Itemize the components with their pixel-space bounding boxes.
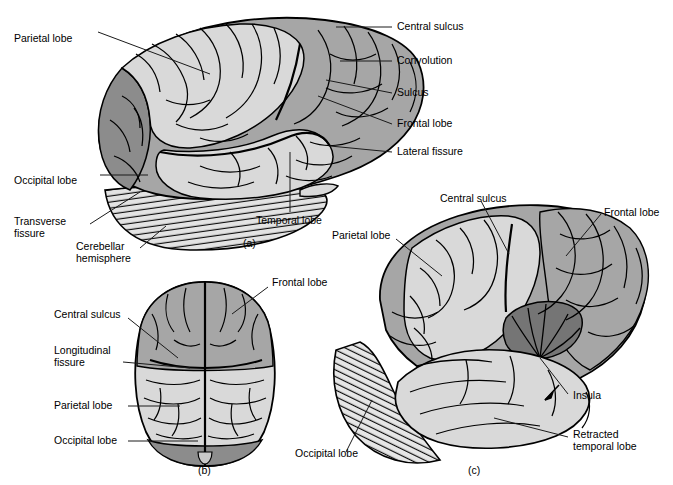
label-panel-c-frontal-lobe: Frontal lobe — [604, 207, 659, 219]
label-panel-a-frontal-lobe: Frontal lobe — [397, 118, 452, 130]
panel-c-brain — [334, 205, 649, 463]
label-panel-c-parietal-lobe: Parietal lobe — [332, 230, 390, 242]
label-panel-b-frontal-lobe: Frontal lobe — [272, 277, 327, 289]
label-panel-a-sulcus: Sulcus — [397, 87, 429, 99]
label-panel-b-longitudinal-fissure: Longitudinal fissure — [54, 345, 111, 368]
label-panel-c-occipital-lobe: Occipital lobe — [295, 448, 358, 460]
label-panel-c-insula: Insula — [573, 390, 601, 402]
label-panel-a-convolution: Convolution — [397, 55, 452, 67]
label-panel-c-retracted-temporal-lobe: Retracted temporal lobe — [573, 429, 637, 452]
label-panel-a-parietal-lobe: Parietal lobe — [14, 33, 72, 45]
panel-a-caption: (a) — [243, 237, 256, 249]
label-panel-b-occipital-lobe: Occipital lobe — [54, 435, 117, 447]
label-panel-a-cerebellar-hemisphere: Cerebellar hemisphere — [76, 241, 131, 264]
panel-a-cerebrum — [98, 18, 423, 199]
panel-c-caption: (c) — [468, 464, 480, 476]
label-panel-a-transverse-fissure: Transverse fissure — [14, 216, 66, 239]
label-panel-a-temporal-lobe: Temporal lobe — [256, 215, 322, 227]
label-panel-a-lateral-fissure: Lateral fissure — [397, 146, 463, 158]
panel-b-caption: (b) — [198, 464, 211, 476]
label-panel-b-parietal-lobe: Parietal lobe — [54, 400, 112, 412]
label-panel-c-central-sulcus: Central sulcus — [440, 193, 507, 205]
label-panel-b-central-sulcus: Central sulcus — [54, 309, 121, 321]
panel-b-brain — [135, 282, 275, 466]
label-panel-a-occipital-lobe: Occipital lobe — [14, 175, 77, 187]
label-panel-a-central-sulcus: Central sulcus — [397, 21, 464, 33]
brain-anatomy-figure: Parietal lobe Occipital lobe Transverse … — [0, 0, 673, 485]
